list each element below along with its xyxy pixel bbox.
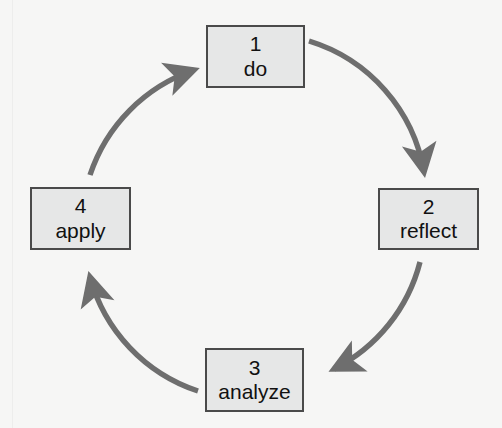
node-reflect[interactable]: 2 reflect	[378, 188, 479, 250]
node-do-label: do	[244, 57, 267, 81]
node-do[interactable]: 1 do	[206, 25, 305, 88]
node-analyze[interactable]: 3 analyze	[205, 348, 304, 412]
cycle-diagram: 1 do 2 reflect 3 analyze 4 apply	[0, 0, 502, 428]
arrow-do-to-reflect	[309, 41, 424, 172]
node-reflect-label: reflect	[400, 219, 457, 243]
arrow-reflect-to-analyze	[334, 262, 420, 369]
node-apply-label: apply	[55, 219, 105, 243]
node-do-number: 1	[250, 32, 262, 56]
arrow-apply-to-do	[90, 70, 194, 175]
node-reflect-number: 2	[423, 195, 435, 219]
node-apply-number: 4	[75, 194, 87, 218]
node-analyze-label: analyze	[218, 380, 290, 404]
arrow-analyze-to-apply	[90, 277, 198, 391]
node-apply[interactable]: 4 apply	[30, 187, 131, 250]
node-analyze-number: 3	[249, 356, 261, 380]
